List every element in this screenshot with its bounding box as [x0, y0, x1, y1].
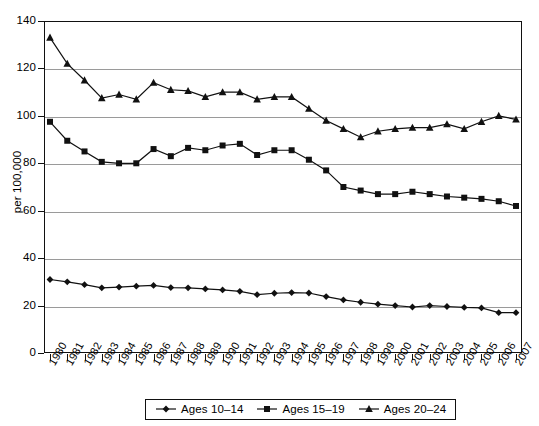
y-tick-label: 80	[23, 158, 36, 170]
data-point-marker	[375, 191, 381, 197]
data-point-marker	[202, 286, 209, 293]
y-tick-label: 120	[17, 63, 37, 75]
data-point-marker	[461, 304, 468, 311]
y-tick-mark	[38, 211, 44, 212]
data-point-marker	[254, 291, 261, 298]
data-point-marker	[64, 138, 70, 144]
data-point-marker	[392, 302, 399, 309]
data-point-marker	[444, 303, 451, 310]
y-tick-label: 0	[30, 347, 37, 359]
y-tick-label: 60	[23, 205, 36, 217]
data-point-marker	[271, 147, 277, 153]
data-point-marker	[495, 112, 503, 119]
data-point-marker	[99, 159, 105, 165]
data-point-marker	[150, 282, 157, 289]
data-point-marker	[495, 309, 502, 316]
data-point-marker	[340, 184, 346, 190]
legend-label: Ages 20–24	[384, 403, 446, 415]
y-tick-mark	[38, 21, 44, 22]
legend-label: Ages 15–19	[282, 403, 344, 415]
data-point-marker	[444, 193, 450, 199]
y-tick-mark	[38, 353, 44, 354]
data-point-marker	[426, 302, 433, 309]
legend-marker-square-icon	[256, 403, 278, 415]
data-point-marker	[513, 203, 519, 209]
y-tick-label: 40	[23, 252, 36, 264]
data-point-marker	[133, 283, 140, 290]
data-point-marker	[151, 146, 157, 152]
data-point-marker	[185, 145, 191, 151]
y-tick-mark	[38, 306, 44, 307]
data-point-marker	[409, 304, 416, 311]
data-point-marker	[116, 284, 123, 291]
y-axis-title: per 100,000	[11, 137, 23, 227]
legend-item: Ages 10–14	[155, 403, 243, 415]
data-point-marker	[340, 296, 347, 303]
data-point-marker	[357, 299, 364, 306]
data-point-marker	[443, 120, 451, 127]
data-point-marker	[305, 290, 312, 297]
data-point-marker	[185, 284, 192, 291]
data-point-marker	[322, 117, 330, 124]
data-point-marker	[409, 189, 415, 195]
data-point-marker	[150, 79, 158, 86]
series-layer	[44, 21, 522, 353]
data-point-marker	[167, 284, 174, 291]
data-point-marker	[167, 86, 175, 93]
data-point-marker	[202, 147, 208, 153]
data-point-marker	[116, 160, 122, 166]
data-point-marker	[47, 119, 53, 125]
data-point-marker	[254, 152, 260, 158]
data-point-marker	[392, 191, 398, 197]
data-point-marker	[133, 160, 139, 166]
legend-item: Ages 20–24	[358, 403, 446, 415]
data-point-marker	[236, 288, 243, 295]
series-ages-15-19	[47, 119, 519, 209]
data-point-marker	[323, 293, 330, 300]
chart-legend: Ages 10–14Ages 15–19Ages 20–24	[145, 399, 456, 420]
data-point-marker	[323, 167, 329, 173]
y-tick-label: 140	[17, 15, 37, 27]
data-point-marker	[478, 305, 485, 312]
legend-item: Ages 15–19	[256, 403, 344, 415]
data-point-marker	[82, 148, 88, 154]
data-point-marker	[461, 195, 467, 201]
legend-label: Ages 10–14	[181, 403, 243, 415]
y-tick-mark	[38, 68, 44, 69]
data-point-marker	[358, 188, 364, 194]
data-point-marker	[513, 309, 520, 316]
data-point-marker	[305, 105, 313, 112]
data-point-marker	[427, 191, 433, 197]
data-point-marker	[220, 143, 226, 149]
data-point-marker	[306, 157, 312, 163]
data-point-marker	[237, 141, 243, 147]
data-point-marker	[46, 34, 54, 41]
data-point-marker	[47, 276, 54, 283]
data-point-marker	[340, 125, 348, 132]
data-point-marker	[271, 290, 278, 297]
data-point-marker	[219, 287, 226, 294]
y-tick-mark	[38, 163, 44, 164]
series-ages-20-24	[46, 34, 520, 141]
legend-marker-diamond-icon	[155, 403, 177, 415]
y-tick-mark	[38, 258, 44, 259]
line-chart: 020406080100120140 per 100,000 Ages 10–1…	[0, 0, 539, 426]
data-point-marker	[288, 289, 295, 296]
y-tick-label: 20	[23, 300, 36, 312]
data-point-marker	[98, 284, 105, 291]
data-point-marker	[478, 196, 484, 202]
data-point-marker	[496, 198, 502, 204]
data-point-marker	[115, 91, 123, 98]
y-tick-label: 100	[17, 110, 37, 122]
data-point-marker	[81, 281, 88, 288]
series-ages-10-14	[47, 276, 520, 316]
data-point-marker	[375, 301, 382, 308]
data-point-marker	[64, 278, 71, 285]
data-point-marker	[289, 147, 295, 153]
data-point-marker	[168, 153, 174, 159]
y-tick-mark	[38, 116, 44, 117]
legend-marker-triangle-icon	[358, 403, 380, 415]
